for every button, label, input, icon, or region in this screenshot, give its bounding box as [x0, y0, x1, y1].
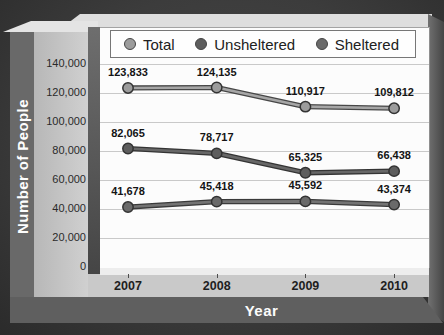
data-point — [212, 196, 222, 206]
data-point — [212, 82, 222, 92]
legend-box: TotalUnshelteredSheltered — [110, 30, 416, 58]
data-point-label: 45,592 — [289, 179, 323, 191]
plot-left-wall — [88, 27, 100, 274]
legend-item-unsheltered: Unsheltered — [195, 36, 295, 53]
legend-dot-sheltered — [316, 38, 328, 50]
data-point-label: 41,678 — [111, 185, 145, 197]
data-point-label: 45,418 — [200, 180, 234, 192]
data-point — [300, 196, 310, 206]
plot-area: 123,833124,135110,917109,81282,06578,717… — [100, 27, 430, 268]
y-tick-label: 20,000 — [30, 231, 86, 244]
x-tick-mark — [305, 274, 306, 278]
series-line-outline — [128, 149, 394, 173]
legend-label: Unsheltered — [214, 36, 295, 53]
data-point-label: 43,374 — [377, 183, 412, 195]
data-point — [212, 148, 222, 158]
data-point — [389, 166, 399, 176]
x-tick-mark — [394, 274, 395, 278]
data-point — [123, 83, 133, 93]
data-point-label: 65,325 — [289, 151, 323, 163]
slab-top-face — [63, 14, 432, 27]
data-point-label: 66,438 — [377, 149, 411, 161]
y-tick-label: 40,000 — [30, 202, 86, 215]
data-point-label: 109,812 — [374, 86, 414, 98]
y-tick-label: 80,000 — [30, 144, 86, 157]
legend-item-sheltered: Sheltered — [316, 36, 399, 53]
y-tick-label: 0 — [30, 260, 86, 273]
x-axis-title-bar: Year — [10, 297, 443, 323]
y-tick-label: 140,000 — [30, 57, 86, 70]
x-tick-label: 2007 — [98, 279, 158, 293]
data-point-label: 124,135 — [197, 66, 237, 78]
legend-item-total: Total — [124, 36, 175, 53]
legend-label: Total — [143, 36, 175, 53]
x-tick-label: 2010 — [364, 279, 424, 293]
legend-dot-total — [124, 38, 136, 50]
x-tick-label: 2008 — [187, 279, 247, 293]
data-point — [389, 103, 399, 113]
x-axis-tick-labels: 2007200820092010 — [100, 274, 429, 297]
data-point — [389, 199, 399, 209]
data-point-label: 110,917 — [286, 85, 325, 97]
data-point — [123, 143, 133, 153]
chart-figure: Number of People Year 123,833124,135110,… — [0, 0, 444, 335]
slab-right-face — [428, 14, 444, 322]
data-point-label: 82,065 — [111, 127, 145, 139]
y-axis-tick-labels: 020,00040,00060,00080,000100,000120,0001… — [30, 27, 87, 267]
data-point-label: 123,833 — [108, 66, 148, 78]
y-tick-label: 100,000 — [30, 115, 86, 128]
x-tick-mark — [128, 274, 129, 278]
data-point — [123, 202, 133, 212]
legend-label: Sheltered — [335, 36, 399, 53]
data-point — [300, 101, 310, 111]
data-point-label: 78,717 — [200, 131, 234, 143]
y-tick-label: 120,000 — [30, 86, 86, 99]
y-tick-label: 60,000 — [30, 173, 86, 186]
y-axis-title: Number of People — [14, 99, 31, 234]
legend-dot-unsheltered — [195, 38, 207, 50]
plot-svg: 123,833124,135110,917109,81282,06578,717… — [100, 28, 429, 268]
data-point — [300, 168, 310, 178]
x-tick-mark — [217, 274, 218, 278]
x-axis-title: Year — [100, 297, 423, 323]
x-tick-label: 2009 — [275, 279, 335, 293]
